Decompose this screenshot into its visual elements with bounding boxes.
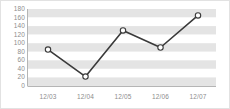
data-point-marker	[195, 13, 200, 18]
line-chart-widget: 180 160 140 120 100 80 60 40 20 0 12/03 …	[0, 0, 230, 109]
data-point-marker	[158, 45, 163, 50]
chart-canvas	[1, 1, 230, 109]
plot-stack: 180 160 140 120 100 80 60 40 20 0 12/03 …	[1, 1, 230, 109]
data-point-marker	[45, 47, 50, 52]
data-point-marker	[83, 74, 88, 79]
data-point-marker	[120, 28, 125, 33]
grid-bands	[28, 9, 216, 86]
